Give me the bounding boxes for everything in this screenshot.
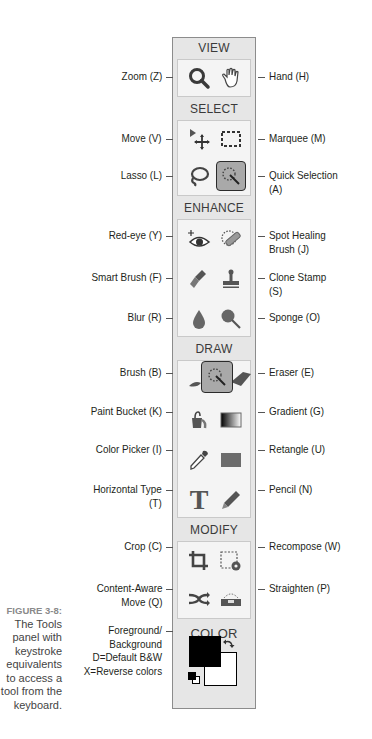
leader-line: [258, 490, 265, 491]
hand-tool[interactable]: [216, 63, 246, 93]
quick-selection-tool-draw[interactable]: [201, 361, 233, 393]
label-zoom: Zoom (Z): [121, 70, 162, 84]
leader-line: [166, 631, 173, 632]
label-crop: Crop (C): [124, 540, 162, 554]
leader-line: [258, 139, 265, 140]
section-title-draw: DRAW: [173, 342, 255, 356]
leader-line: [258, 176, 265, 177]
section-title-modify: MODIFY: [173, 523, 255, 537]
label-horizontal-type: Horizontal Type (T): [93, 483, 162, 510]
label-color: Foreground/ Background D=Default B&W X=R…: [84, 624, 162, 678]
straighten-tool[interactable]: [216, 584, 246, 614]
label-red-eye: Red-eye (Y): [109, 229, 162, 243]
figure-caption-text: The Tools panel with keystroke equivalen…: [1, 618, 62, 711]
section-title-view: VIEW: [173, 41, 255, 55]
leader-line: [258, 373, 265, 374]
lasso-icon: [187, 164, 211, 188]
content-aware-move-tool[interactable]: [184, 584, 214, 614]
section-title-select: SELECT: [173, 102, 255, 116]
crop-tool[interactable]: [184, 546, 214, 576]
leader-line: [258, 412, 265, 413]
leader-line: [166, 236, 173, 237]
quick-selection-icon: [219, 164, 243, 188]
label-content-aware-move: Content-Aware Move (Q): [96, 582, 162, 609]
eyedropper-icon: [187, 448, 211, 472]
label-smart-brush: Smart Brush (F): [92, 271, 162, 285]
rectangle-tool[interactable]: [216, 445, 246, 475]
label-gradient: Gradient (G): [269, 405, 324, 419]
leader-line: [258, 236, 265, 237]
leader-line: [166, 278, 173, 279]
leader-line: [258, 278, 265, 279]
spot-healing-brush-tool[interactable]: [216, 224, 246, 254]
leader-line: [166, 77, 173, 78]
swap-colors-icon[interactable]: [223, 638, 235, 650]
label-line: Background: [84, 638, 162, 652]
marquee-tool[interactable]: [216, 124, 246, 154]
type-icon: T: [190, 486, 209, 514]
recompose-tool[interactable]: [216, 546, 246, 576]
label-line: (T): [93, 497, 162, 511]
zoom-tool[interactable]: [184, 63, 214, 93]
leader-line: [258, 450, 265, 451]
label-pencil: Pencil (N): [269, 483, 312, 497]
label-sponge: Sponge (O): [269, 311, 320, 325]
blur-tool[interactable]: [184, 304, 214, 334]
label-line: Foreground/: [84, 624, 162, 638]
quick-selection-tool[interactable]: [216, 161, 246, 191]
smart-brush-tool[interactable]: [184, 264, 214, 294]
horizontal-type-tool[interactable]: T: [184, 485, 214, 515]
clone-stamp-tool[interactable]: [216, 264, 246, 294]
label-hand: Hand (H): [269, 70, 309, 84]
section-draw: T: [177, 360, 251, 518]
red-eye-tool[interactable]: [184, 224, 214, 254]
label-line: (S): [269, 285, 326, 299]
marquee-icon: [219, 127, 243, 151]
pencil-icon: [219, 488, 243, 512]
leader-line: [166, 176, 173, 177]
foreground-color-swatch[interactable]: [189, 636, 221, 667]
label-color-picker: Color Picker (I): [96, 443, 162, 457]
move-icon: [187, 127, 211, 151]
label-spot-healing: Spot Healing Brush (J): [269, 229, 326, 256]
section-modify: [177, 541, 251, 619]
color-picker-tool[interactable]: [184, 445, 214, 475]
shuffle-icon: [187, 587, 211, 611]
pencil-tool[interactable]: [216, 485, 246, 515]
label-marquee: Marquee (M): [269, 132, 326, 146]
sponge-tool[interactable]: [216, 304, 246, 334]
hand-icon: [219, 66, 243, 90]
label-line: (A): [269, 183, 338, 197]
quick-selection-icon: [205, 365, 229, 389]
crop-icon: [187, 549, 211, 573]
figure-caption: FIGURE 3-8: The Tools panel with keystro…: [0, 604, 62, 712]
section-view: [177, 59, 251, 97]
label-line: Clone Stamp: [269, 271, 326, 285]
label-line: Content-Aware: [96, 582, 162, 596]
label-paint-bucket: Paint Bucket (K): [91, 405, 162, 419]
smart-brush-icon: [187, 267, 211, 291]
label-line: D=Default B&W: [84, 651, 162, 665]
leader-line: [166, 450, 173, 451]
paint-bucket-tool[interactable]: [184, 405, 214, 435]
label-line: Move (Q): [96, 596, 162, 610]
label-straighten: Straighten (P): [269, 582, 330, 596]
leader-line: [258, 318, 265, 319]
leader-line: [166, 412, 173, 413]
leader-line: [166, 490, 173, 491]
leader-line: [166, 373, 173, 374]
leader-line: [166, 139, 173, 140]
lasso-tool[interactable]: [184, 161, 214, 191]
section-select: [177, 120, 251, 196]
label-line: X=Reverse colors: [84, 665, 162, 679]
figure-label: FIGURE 3-8:: [0, 604, 62, 618]
gradient-tool[interactable]: [216, 405, 246, 435]
default-colors-button[interactable]: [188, 672, 196, 680]
label-move: Move (V): [122, 132, 162, 146]
move-tool[interactable]: [184, 124, 214, 154]
stamp-icon: [219, 267, 243, 291]
label-line: Spot Healing: [269, 229, 326, 243]
label-recompose: Recompose (W): [269, 540, 340, 554]
drop-icon: [187, 307, 211, 331]
leader-line: [166, 547, 173, 548]
